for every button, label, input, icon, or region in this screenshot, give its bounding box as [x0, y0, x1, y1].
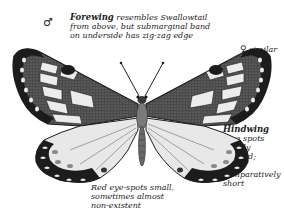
right-hindwing: [146, 118, 248, 183]
left-forewing: [13, 49, 138, 126]
left-hindwing: [36, 118, 138, 183]
butterfly-illustration: [0, 0, 284, 215]
antennae: [121, 63, 163, 96]
right-forewing: [146, 49, 271, 126]
